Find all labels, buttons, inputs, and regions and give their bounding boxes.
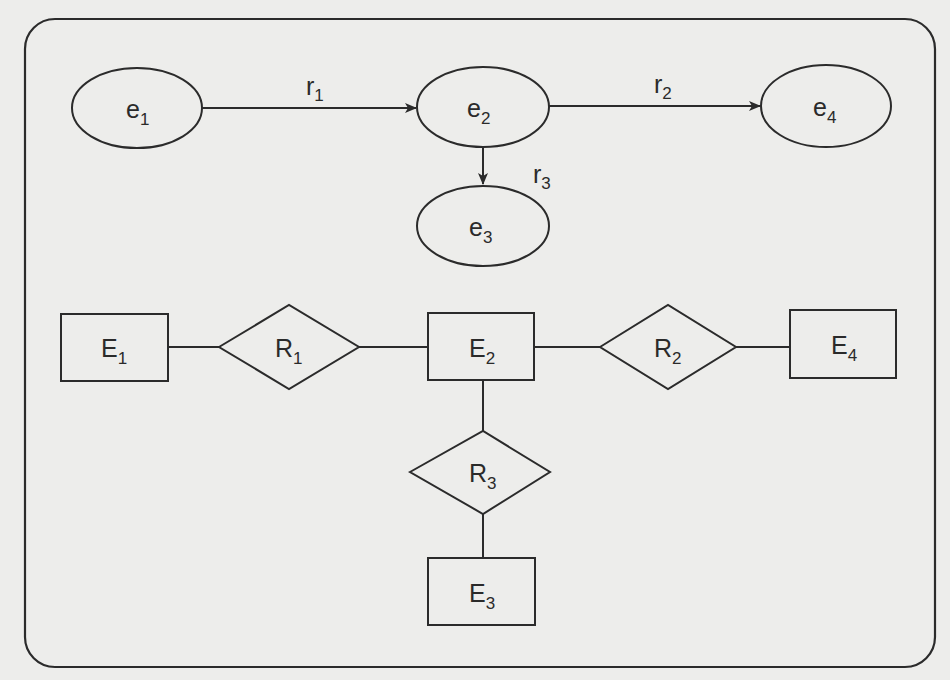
node-e3: e3 xyxy=(417,186,549,266)
node-e4: e4 xyxy=(761,65,891,147)
entity-label-e3: E3 xyxy=(469,579,495,613)
node-label-e3: e3 xyxy=(469,213,492,247)
entity-label-e2: E2 xyxy=(469,334,495,368)
relationship-r2: R2 xyxy=(600,305,736,389)
diagram-canvas: r1 r2 r3 e1 e2 e3 e4 xyxy=(0,0,950,680)
node-e1: e1 xyxy=(72,68,202,148)
entity-label-e1: E1 xyxy=(101,334,127,368)
edge-label-r1: r1 xyxy=(306,72,324,105)
entity-e3: E3 xyxy=(428,558,535,625)
relationship-r3: R3 xyxy=(410,431,550,514)
relationship-r1: R1 xyxy=(219,305,359,389)
er-diagram: r1 r2 r3 e1 e2 e3 e4 xyxy=(0,0,950,680)
node-e2: e2 xyxy=(417,67,549,147)
edge-r2: r2 xyxy=(549,70,760,106)
entity-e4: E4 xyxy=(790,310,896,378)
edge-r1: r1 xyxy=(202,72,416,108)
entity-e1: E1 xyxy=(61,314,168,381)
node-label-e2: e2 xyxy=(467,94,490,128)
relationship-label-r3: R3 xyxy=(469,459,497,493)
er-connectors xyxy=(168,347,790,558)
relationship-label-r1: R1 xyxy=(275,334,303,368)
entity-e2: E2 xyxy=(428,313,534,380)
relationship-label-r2: R2 xyxy=(654,334,682,368)
node-label-e4: e4 xyxy=(813,93,836,127)
node-label-e1: e1 xyxy=(126,95,149,129)
edge-label-r3: r3 xyxy=(533,160,551,193)
entity-label-e4: E4 xyxy=(831,331,857,365)
edge-label-r2: r2 xyxy=(654,70,672,103)
